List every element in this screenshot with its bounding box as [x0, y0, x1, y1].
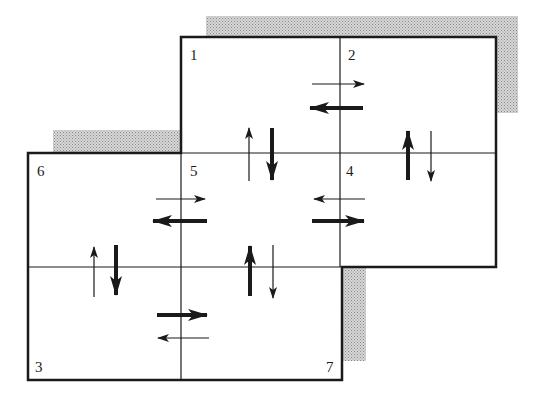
- shadow-left-ledge: [53, 130, 181, 152]
- shadow-top: [206, 16, 518, 38]
- grid-lines: [28, 37, 496, 380]
- region-flow-diagram: 1 2 6 5 4 3 7: [0, 0, 536, 401]
- region-label-3: 3: [35, 359, 43, 375]
- shadow-lower-right: [342, 268, 366, 361]
- region-label-4: 4: [346, 163, 354, 179]
- region-labels: 1 2 6 5 4 3 7: [35, 47, 356, 375]
- arrows: [94, 84, 431, 338]
- region-label-1: 1: [190, 47, 198, 63]
- region-label-5: 5: [190, 163, 198, 179]
- shadows: [53, 16, 518, 361]
- shadow-right-full: [496, 16, 518, 113]
- outer-boundary: [28, 37, 496, 380]
- region-label-6: 6: [37, 163, 45, 179]
- region-label-2: 2: [348, 47, 356, 63]
- region-label-7: 7: [326, 359, 334, 375]
